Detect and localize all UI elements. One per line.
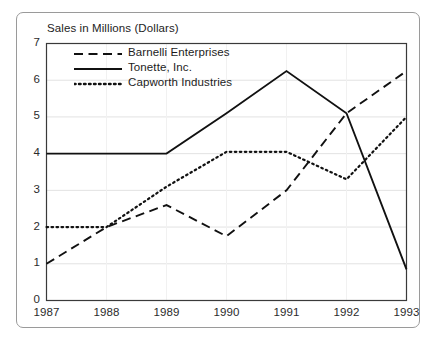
legend-item-label: Barnelli Enterprises [128, 46, 230, 58]
legend-line-sample-icon [74, 46, 122, 58]
legend-item: Tonette, Inc. [74, 59, 284, 74]
x-axis-tick-label: 1991 [265, 306, 309, 318]
x-axis-tick-label: 1992 [325, 306, 369, 318]
chart-legend: Barnelli EnterprisesTonette, Inc.Capwort… [74, 44, 284, 89]
x-axis-tick-label: 1990 [205, 306, 249, 318]
legend-item: Capworth Industries [74, 74, 284, 89]
y-axis-tick-label: 3 [22, 183, 40, 195]
chart-figure: Sales in Millions (Dollars) 01234567 198… [0, 0, 436, 344]
x-axis-tick-label: 1988 [85, 306, 129, 318]
x-axis-tick-label: 1987 [25, 306, 69, 318]
legend-item: Barnelli Enterprises [74, 44, 284, 59]
y-axis-title: Sales in Millions (Dollars) [47, 22, 179, 34]
line-chart: Sales in Millions (Dollars) 01234567 198… [0, 0, 436, 344]
y-axis-tick-label: 2 [22, 220, 40, 232]
y-axis-tick-label: 1 [22, 256, 40, 268]
legend-line-sample-icon [74, 76, 122, 88]
legend-item-label: Capworth Industries [128, 76, 232, 88]
y-axis-tick-label: 5 [22, 109, 40, 121]
y-axis-tick-label: 0 [22, 293, 40, 305]
x-axis-tick-label: 1989 [145, 306, 189, 318]
x-axis-tick-label: 1993 [385, 306, 429, 318]
y-axis-tick-label: 4 [22, 146, 40, 158]
y-axis-tick-label: 7 [22, 36, 40, 48]
y-axis-tick-label: 6 [22, 73, 40, 85]
legend-line-sample-icon [74, 61, 122, 73]
legend-item-label: Tonette, Inc. [128, 61, 192, 73]
